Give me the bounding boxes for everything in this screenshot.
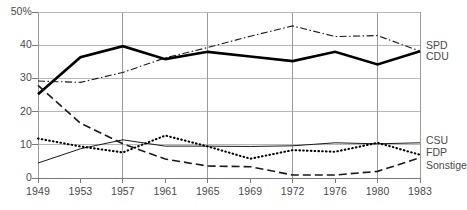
x-tick-label: 1980 (357, 185, 399, 197)
y-tick-label: 30 (0, 71, 32, 83)
legend-label-sonstige: Sonstige (426, 159, 467, 171)
x-tick-label: 1983 (399, 185, 441, 197)
x-tick-label: 1961 (144, 185, 186, 197)
x-tick-label: 1976 (314, 185, 356, 197)
y-tick-label: 40 (0, 38, 32, 50)
legend-label-csu: CSU (426, 134, 448, 146)
y-tick-label: 20 (0, 105, 32, 117)
series-lines (38, 26, 420, 175)
legend-label-cdu: CDU (426, 50, 449, 62)
series-line-fdp (38, 136, 420, 159)
series-line-sonstige (38, 85, 420, 175)
y-tick-label: 50% (0, 5, 32, 17)
y-tick-label: 10 (0, 138, 32, 150)
x-tick-label: 1969 (229, 185, 271, 197)
series-line-csu (38, 140, 420, 163)
x-tick-label: 1965 (187, 185, 229, 197)
x-tick-label: 1953 (59, 185, 101, 197)
legend-label-spd: SPD (426, 39, 448, 51)
x-tick-label: 1972 (272, 185, 314, 197)
y-tick-label: 0 (0, 171, 32, 183)
axis-ticks (32, 12, 420, 183)
legend-label-fdp: FDP (426, 146, 447, 158)
x-tick-label: 1957 (102, 185, 144, 197)
series-line-cdu (38, 46, 420, 94)
x-tick-label: 1949 (17, 185, 59, 197)
